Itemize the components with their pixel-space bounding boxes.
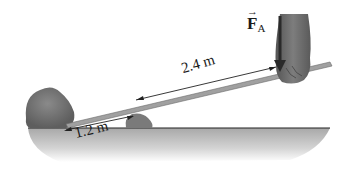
diagram-graphic	[0, 0, 357, 174]
fulcrum-stone	[126, 114, 153, 129]
vector-arrow-icon: →	[247, 5, 258, 17]
lever-diagram: → FA 2.4 m 1.2 m	[0, 0, 357, 174]
force-label: → FA	[247, 14, 265, 34]
ground	[28, 128, 330, 162]
force-subscript: A	[257, 22, 265, 34]
rock	[26, 87, 75, 128]
